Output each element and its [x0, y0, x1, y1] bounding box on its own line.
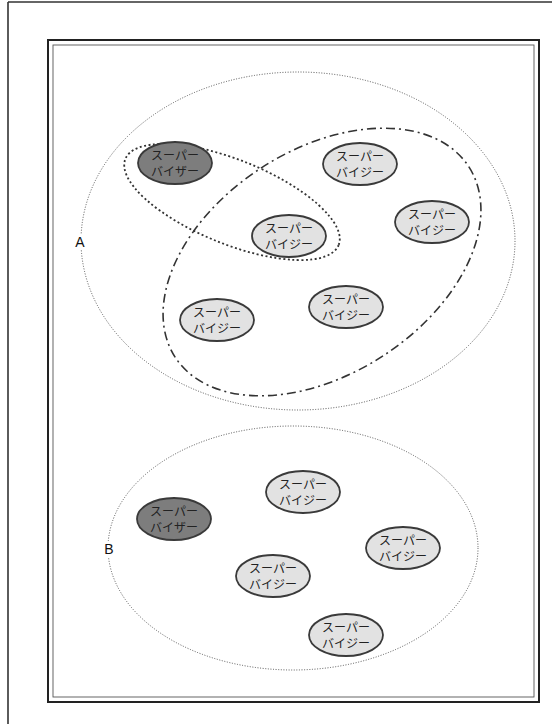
supervisee-node: スーパーバイジー	[395, 201, 469, 243]
node-label-line1: スーパー	[336, 150, 384, 164]
supervisee-node: スーパーバイジー	[309, 614, 383, 656]
node-label-line2: バイジー	[249, 578, 297, 592]
node-label-line2: バイジー	[193, 322, 241, 336]
node-label-line1: スーパー	[408, 208, 456, 222]
node-label-line2: バイジー	[279, 494, 327, 508]
node-label-line1: スーパー	[322, 621, 370, 635]
supervisee-node: スーパーバイジー	[180, 299, 254, 341]
node-label-line2: バイジー	[408, 224, 456, 238]
group-label: B	[104, 541, 113, 557]
diagram-canvas: Aスーパーバイザースーパーバイジースーパーバイジースーパーバイジースーパーバイジ…	[0, 0, 552, 724]
node-label-line1: スーパー	[379, 534, 427, 548]
groups-layer: Aスーパーバイザースーパーバイジースーパーバイジースーパーバイジースーパーバイジ…	[74, 72, 530, 670]
node-label-line2: バイジー	[336, 166, 384, 180]
supervisee-node: スーパーバイジー	[366, 527, 440, 569]
node-label-line1: スーパー	[279, 478, 327, 492]
supervisor-pair-loop	[110, 120, 355, 284]
node-label-line1: スーパー	[193, 306, 241, 320]
inner-frame-outer-line	[48, 40, 539, 702]
node-label-line2: バイザー	[151, 165, 199, 179]
node-label-line2: バイジー	[322, 309, 370, 323]
node-label-line1: スーパー	[265, 222, 313, 236]
supervisee-node: スーパーバイジー	[252, 215, 326, 257]
supervisor-node: スーパーバイザー	[137, 498, 211, 540]
node-label-line1: スーパー	[249, 562, 297, 576]
node-label-line2: バイザー	[150, 521, 198, 535]
supervisee-node: スーパーバイジー	[323, 143, 397, 185]
group-label: A	[75, 234, 85, 250]
node-label-line1: スーパー	[322, 293, 370, 307]
supervisee-node: スーパーバイジー	[236, 555, 310, 597]
supervisor-node: スーパーバイザー	[138, 142, 212, 184]
supervisee-node: スーパーバイジー	[266, 471, 340, 513]
node-label-line2: バイジー	[322, 637, 370, 651]
group-a: Aスーパーバイザースーパーバイジースーパーバイジースーパーバイジースーパーバイジ…	[74, 72, 530, 451]
group-b: Bスーパーバイザースーパーバイジースーパーバイジースーパーバイジースーパーバイジ…	[103, 426, 478, 670]
supervisee-node: スーパーバイジー	[309, 286, 383, 328]
supervisee-group-loop	[114, 73, 530, 451]
node-label-line1: スーパー	[151, 149, 199, 163]
node-label-line1: スーパー	[150, 505, 198, 519]
node-label-line2: バイジー	[379, 550, 427, 564]
node-label-line2: バイジー	[265, 238, 313, 252]
